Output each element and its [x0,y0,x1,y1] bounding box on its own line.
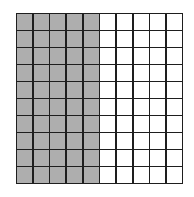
unshaded-cell [117,167,132,183]
shaded-cell [50,150,65,166]
shaded-cell [50,65,65,81]
unshaded-cell [117,82,132,98]
unshaded-cell [100,116,115,132]
shaded-cell [34,82,49,98]
unshaded-cell [117,31,132,47]
unshaded-cell [117,65,132,81]
shaded-cell [34,14,49,30]
hundred-grid [16,13,183,184]
unshaded-cell [100,82,115,98]
unshaded-cell [100,99,115,115]
unshaded-cell [150,99,165,115]
unshaded-cell [167,167,182,183]
shaded-cell [67,31,82,47]
shaded-cell [67,167,82,183]
unshaded-cell [134,150,149,166]
unshaded-cell [100,167,115,183]
unshaded-cell [167,82,182,98]
shaded-cell [50,14,65,30]
unshaded-cell [100,48,115,64]
unshaded-cell [134,167,149,183]
shaded-cell [67,82,82,98]
unshaded-cell [134,48,149,64]
shaded-cell [67,116,82,132]
shaded-cell [34,65,49,81]
unshaded-cell [134,133,149,149]
unshaded-cell [117,14,132,30]
shaded-cell [84,14,99,30]
shaded-cell [84,82,99,98]
shaded-cell [84,133,99,149]
shaded-cell [84,167,99,183]
shaded-cell [17,167,32,183]
shaded-cell [84,48,99,64]
shaded-cell [84,31,99,47]
shaded-cell [84,99,99,115]
shaded-cell [34,150,49,166]
shaded-cell [34,31,49,47]
shaded-cell [84,116,99,132]
shaded-cell [17,99,32,115]
shaded-cell [34,99,49,115]
unshaded-cell [100,31,115,47]
unshaded-cell [117,116,132,132]
unshaded-cell [167,48,182,64]
shaded-cell [84,65,99,81]
shaded-cell [34,167,49,183]
shaded-cell [67,133,82,149]
unshaded-cell [100,14,115,30]
unshaded-cell [167,116,182,132]
unshaded-cell [150,150,165,166]
shaded-cell [34,48,49,64]
unshaded-cell [150,116,165,132]
shaded-cell [17,14,32,30]
shaded-cell [17,31,32,47]
shaded-cell [50,82,65,98]
unshaded-cell [150,133,165,149]
unshaded-cell [167,99,182,115]
shaded-cell [50,116,65,132]
unshaded-cell [134,31,149,47]
unshaded-cell [134,116,149,132]
unshaded-cell [117,150,132,166]
shaded-cell [17,150,32,166]
shaded-cell [67,14,82,30]
unshaded-cell [150,48,165,64]
unshaded-cell [117,48,132,64]
shaded-cell [34,116,49,132]
shaded-cell [50,31,65,47]
unshaded-cell [167,133,182,149]
shaded-cell [50,99,65,115]
unshaded-cell [134,65,149,81]
unshaded-cell [134,14,149,30]
unshaded-cell [150,14,165,30]
unshaded-cell [167,31,182,47]
unshaded-cell [150,82,165,98]
unshaded-cell [100,150,115,166]
shaded-cell [34,133,49,149]
shaded-cell [67,65,82,81]
shaded-cell [17,48,32,64]
shaded-cell [17,116,32,132]
unshaded-cell [117,99,132,115]
shaded-cell [17,82,32,98]
unshaded-cell [150,31,165,47]
shaded-cell [50,167,65,183]
unshaded-cell [167,150,182,166]
shaded-cell [67,99,82,115]
unshaded-cell [167,65,182,81]
unshaded-cell [150,167,165,183]
shaded-cell [67,150,82,166]
unshaded-cell [134,82,149,98]
shaded-cell [50,48,65,64]
shaded-cell [17,65,32,81]
shaded-cell [17,133,32,149]
shaded-cell [50,133,65,149]
unshaded-cell [117,133,132,149]
unshaded-cell [167,14,182,30]
unshaded-cell [100,133,115,149]
unshaded-cell [150,65,165,81]
unshaded-cell [100,65,115,81]
shaded-cell [84,150,99,166]
shaded-cell [67,48,82,64]
